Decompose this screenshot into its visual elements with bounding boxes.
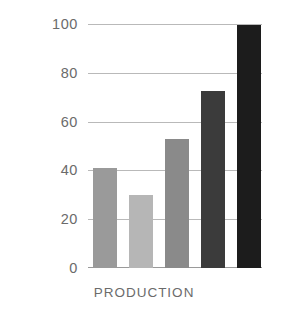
y-tick-text: 80 bbox=[61, 65, 78, 81]
y-tick-text: 40 bbox=[61, 162, 78, 178]
y-tick-text: 100 bbox=[52, 16, 78, 32]
y-tick-label-0: 0 bbox=[0, 261, 78, 276]
bar-1 bbox=[93, 168, 117, 268]
bar-4 bbox=[201, 91, 225, 268]
y-tick-text: 60 bbox=[61, 114, 78, 130]
y-tick-label-60: 60 bbox=[0, 115, 78, 130]
y-tick-text: 0 bbox=[69, 260, 78, 276]
bar-2 bbox=[129, 195, 153, 268]
y-tick-label-80: 80 bbox=[0, 66, 78, 81]
bar-3 bbox=[165, 139, 189, 268]
y-tick-text: 20 bbox=[61, 211, 78, 227]
y-tick-label-40: 40 bbox=[0, 163, 78, 178]
plot-area bbox=[88, 24, 262, 268]
x-axis-label: PRODUCTION bbox=[0, 285, 288, 300]
y-tick-label-100: 100 bbox=[0, 17, 78, 32]
bar-5 bbox=[237, 25, 261, 268]
bars-layer bbox=[88, 24, 262, 268]
y-tick-label-20: 20 bbox=[0, 212, 78, 227]
bar-chart: 100 80 60 40 20 0 PRODUCTION bbox=[0, 0, 288, 317]
